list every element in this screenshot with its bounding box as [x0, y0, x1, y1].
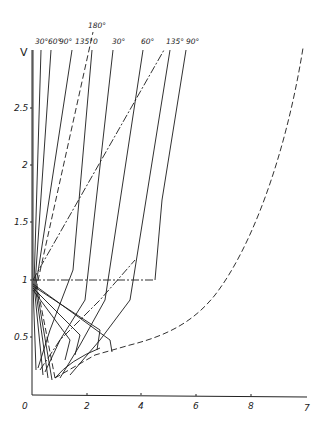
curve-label-60-right: 60°: [141, 37, 155, 46]
x-tick-8: 8: [248, 401, 254, 411]
y-tick-1: 1: [22, 275, 28, 285]
y-axis-label: V: [20, 46, 28, 59]
diagonal-line: [33, 50, 164, 280]
curve-label-90-right: 90°: [186, 37, 200, 46]
y-tick-2: 2: [22, 160, 28, 170]
curves: [33, 32, 303, 380]
origin-label: 0: [22, 401, 28, 411]
axes: [30, 50, 307, 397]
curve-90-right: [155, 50, 186, 280]
curve-135-right: [70, 50, 170, 375]
curve-label-30-right: 30°: [112, 37, 126, 46]
x-tick-4: 4: [138, 401, 144, 411]
x-tick-end: 7: [304, 403, 310, 413]
y-tick-0.5: 0.5: [14, 332, 29, 342]
curve-label-0: 0: [93, 37, 98, 46]
y-tick-1.5: 1.5: [14, 217, 29, 227]
curve-label-30-left: 30°: [35, 37, 49, 46]
curve-60-right: [60, 50, 143, 378]
envelope-curve: [55, 48, 303, 378]
x-axis: [32, 395, 307, 397]
x-tick-6: 6: [193, 401, 199, 411]
curve-30-right: [45, 50, 113, 372]
curve-label-135-right: 135°: [166, 37, 184, 46]
y-tick-2.5: 2.5: [14, 103, 29, 113]
curve-60-left: [34, 50, 43, 375]
curve-label-180: 180°: [88, 21, 106, 30]
curve-label-90-left: 90°: [59, 37, 73, 46]
curve-30-left: [33, 50, 36, 370]
chart-canvas: V 0.5 1 1.5 2 2.5 0 2 4 6 8 7 30° 60° 90…: [0, 0, 326, 440]
curve-180: [37, 32, 93, 378]
lower-arc: [55, 348, 100, 378]
x-tick-2: 2: [84, 401, 90, 411]
